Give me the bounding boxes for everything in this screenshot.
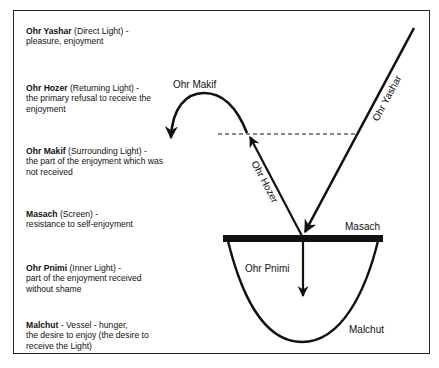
label-malchut: Malchut (349, 324, 384, 335)
ohr-yashar-arrow (305, 28, 414, 232)
light-vessel-diagram: Ohr Makif Ohr Yashar Ohr Hozer Masach Oh… (0, 0, 439, 368)
ohr-makif-arrow (171, 93, 247, 138)
label-masach: Masach (345, 221, 380, 232)
label-ohr-makif: Ohr Makif (173, 79, 217, 90)
label-ohr-pnimi: Ohr Pnimi (245, 263, 289, 274)
ohr-hozer-arrow (250, 137, 302, 236)
